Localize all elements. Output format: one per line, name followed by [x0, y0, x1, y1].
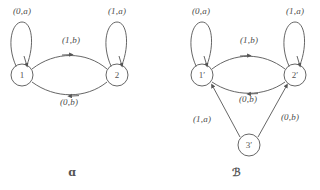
self-loop-state-2-prime	[284, 22, 305, 66]
edge-2prime-to-1prime	[212, 82, 285, 94]
edge-label-1prime-to-2prime: (1,b)	[240, 35, 258, 45]
self-loop-label-state-2-prime: (1,a)	[286, 6, 304, 16]
state-label-3-prime: 3′	[246, 140, 252, 150]
self-loop-label-state-2: (1,a)	[108, 6, 126, 16]
diagram-alpha	[11, 22, 128, 96]
state-label-2-prime: 2′	[292, 70, 298, 80]
edge-1-to-2	[32, 55, 107, 69]
edge-1prime-to-2prime	[212, 56, 285, 69]
state-label-1-prime: 1′	[199, 70, 205, 80]
self-loop-state-1-prime	[191, 22, 212, 66]
self-loop-label-state-1-prime: (0,a)	[192, 6, 210, 16]
edge-label-3prime-to-1prime: (1,a)	[193, 114, 211, 124]
edge-label-2-to-1: (0,b)	[60, 97, 78, 107]
self-loop-label-state-1: (0,a)	[13, 6, 31, 16]
edge-label-1-to-2: (1,b)	[62, 35, 80, 45]
state-label-2: 2	[115, 70, 120, 80]
caption-alpha: ɑ	[68, 166, 76, 179]
state-label-1: 1	[20, 70, 25, 80]
edge-2-to-1	[32, 82, 107, 96]
edge-3prime-to-2prime	[258, 85, 287, 137]
edge-3prime-to-1prime	[212, 85, 240, 137]
caption-beta: ℬ	[232, 166, 241, 179]
self-loop-state-2	[106, 22, 127, 66]
edge-label-2prime-to-1prime: (0,b)	[239, 94, 257, 104]
edge-label-3prime-to-2prime: (0,b)	[281, 112, 299, 122]
self-loop-state-1	[11, 22, 32, 66]
diagram-canvas	[0, 0, 320, 190]
